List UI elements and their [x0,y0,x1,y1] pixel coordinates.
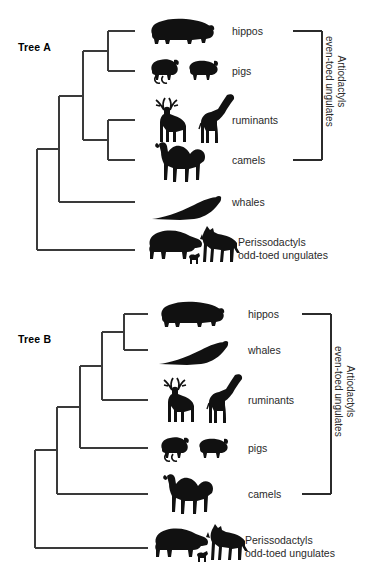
clade-label-artiodactyls-line1: Artiodactyls [336,36,348,127]
clade-label-artiodactyls-line1: Artiodactyls [345,346,357,437]
camel-silhouette [160,468,216,518]
tip-label-hippos: hippos [232,25,263,37]
tree-a-title: Tree A [18,41,51,53]
clade-label-artiodactyls-line2: even-toed ungulates [333,346,345,437]
tip-label-perissodactyls-line2: odd-toed ungulates [245,547,335,560]
zebra-silhouette [196,226,242,266]
clade-label-artiodactyls-line2: even-toed ungulates [324,36,336,127]
hippo-silhouette [158,300,226,330]
zebra-silhouette [204,524,250,564]
deer-silhouette [158,376,204,426]
tip-label-perissodactyls-line2: odd-toed ungulates [238,249,328,262]
boar-silhouette [157,435,190,463]
tree-b-title: Tree B [18,333,51,345]
whale-silhouette [157,340,229,366]
artiodactyls-bracket [293,31,322,160]
tip-label-hippos: hippos [248,308,279,320]
hippo-silhouette [148,17,216,47]
whale-silhouette [150,195,222,221]
pig-silhouette [196,438,229,460]
artiodactyls-bracket [302,314,331,494]
boar-silhouette [147,57,180,85]
tree-a-panel: Tree A hippos pigs ruminants camels whal… [0,0,386,290]
camel-silhouette [152,136,208,186]
tip-label-camels: camels [232,154,265,166]
giraffe-silhouette [204,371,246,427]
tip-label-perissodactyls-line1: Perissodactyls [245,534,335,547]
tip-label-whales: whales [248,344,281,356]
tip-label-camels: camels [248,488,281,500]
tip-label-ruminants: ruminants [232,114,278,126]
tip-label-perissodactyls-line1: Perissodactyls [238,236,328,249]
tip-label-pigs: pigs [232,65,251,77]
pig-silhouette [186,60,219,82]
tip-label-pigs: pigs [248,442,267,454]
tree-b-panel: Tree B hippos whales ruminants pigs came… [0,290,386,576]
clade-label-artiodactyls: Artiodactyls even-toed ungulates [324,36,347,127]
tip-label-ruminants: ruminants [248,394,294,406]
tip-label-perissodactyls: Perissodactyls odd-toed ungulates [238,236,328,261]
tip-label-perissodactyls: Perissodactyls odd-toed ungulates [245,534,335,559]
tip-label-whales: whales [232,196,265,208]
clade-label-artiodactyls: Artiodactyls even-toed ungulates [333,346,356,437]
